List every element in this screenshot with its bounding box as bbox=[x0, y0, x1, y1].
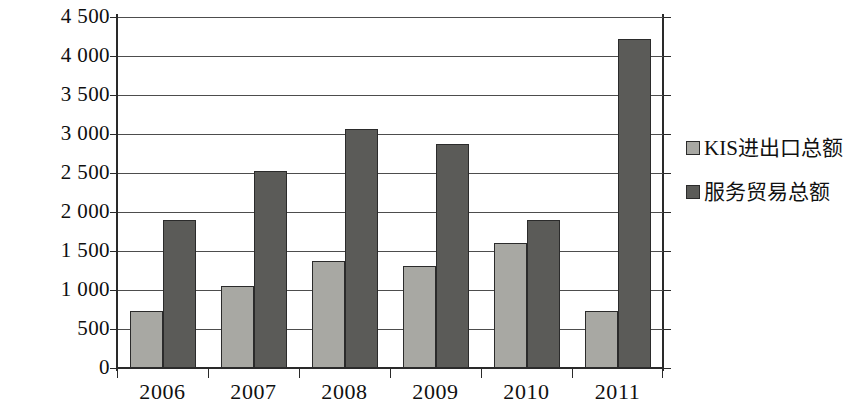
bar-2006-series2 bbox=[163, 220, 196, 368]
x-axis-labels: 200620072008200920102011 bbox=[117, 379, 663, 409]
y-axis-tick-label: 4 000 bbox=[14, 45, 110, 66]
y-axis-tick-right bbox=[663, 56, 671, 57]
bar-2010-series2 bbox=[527, 220, 560, 368]
x-axis-tick bbox=[572, 369, 573, 378]
bar-2007-series1 bbox=[221, 286, 254, 368]
y-axis-tick-right bbox=[663, 134, 671, 135]
legend-item-services: 服务贸易总额 bbox=[686, 170, 863, 214]
y-axis-labels: 4 5004 0003 5003 0002 5002 0001 5001 000… bbox=[0, 17, 110, 368]
x-axis-label-2011: 2011 bbox=[572, 379, 663, 405]
y-axis-tick-right bbox=[663, 329, 671, 330]
bar-2009-series1 bbox=[403, 266, 436, 368]
y-axis-tick-label: 3 500 bbox=[14, 84, 110, 105]
y-axis-tick-label: 2 000 bbox=[14, 201, 110, 222]
y-axis-tick-label: 0 bbox=[14, 357, 110, 378]
x-axis-label-2010: 2010 bbox=[481, 379, 572, 405]
legend-item-kis: KIS进出口总额 bbox=[686, 126, 863, 170]
x-axis-tick bbox=[390, 369, 391, 378]
x-axis-label-2008: 2008 bbox=[299, 379, 390, 405]
bar-2011-series1 bbox=[585, 311, 618, 368]
x-axis-label-2006: 2006 bbox=[117, 379, 208, 405]
y-axis-tick-label: 2 500 bbox=[14, 162, 110, 183]
y-axis-tick-right bbox=[663, 290, 671, 291]
bar-2011-series2 bbox=[618, 39, 651, 368]
bar-2006-series1 bbox=[130, 311, 163, 368]
y-axis-tick-right bbox=[663, 95, 671, 96]
plot-area bbox=[117, 17, 663, 368]
bar-group-2006 bbox=[117, 17, 208, 368]
y-axis-tick-label: 4 500 bbox=[14, 6, 110, 27]
legend: KIS进出口总额 服务贸易总额 bbox=[686, 126, 863, 214]
y-axis-tick-right bbox=[663, 173, 671, 174]
bar-2009-series2 bbox=[436, 144, 469, 368]
y-axis-tick-label: 3 000 bbox=[14, 123, 110, 144]
bar-2010-series1 bbox=[494, 243, 527, 368]
legend-swatch-icon-services bbox=[686, 185, 700, 199]
x-axis-tick bbox=[481, 369, 482, 378]
x-axis-tick bbox=[117, 369, 118, 378]
x-axis-ticks bbox=[117, 369, 663, 379]
bar-group-2008 bbox=[299, 17, 390, 368]
y-axis-tick-right bbox=[663, 212, 671, 213]
legend-label-services: 服务贸易总额 bbox=[704, 181, 830, 204]
bar-2008-series2 bbox=[345, 129, 378, 368]
bar-2007-series2 bbox=[254, 171, 287, 368]
y-axis-tick-right bbox=[663, 251, 671, 252]
x-axis-label-2007: 2007 bbox=[208, 379, 299, 405]
chart-figure: 4 5004 0003 5003 0002 5002 0001 5001 000… bbox=[0, 0, 863, 411]
legend-label-kis: KIS进出口总额 bbox=[704, 137, 843, 160]
y-axis-tick-label: 1 000 bbox=[14, 279, 110, 300]
bar-group-2009 bbox=[390, 17, 481, 368]
bar-group-2011 bbox=[572, 17, 663, 368]
bar-group-2010 bbox=[481, 17, 572, 368]
bar-2008-series1 bbox=[312, 261, 345, 368]
x-axis-tick bbox=[299, 369, 300, 378]
x-axis-tick bbox=[208, 369, 209, 378]
y-axis-tick-right bbox=[663, 368, 671, 369]
y-axis-tick-label: 500 bbox=[14, 318, 110, 339]
y-axis-tick-right bbox=[663, 17, 671, 18]
x-axis-label-2009: 2009 bbox=[390, 379, 481, 405]
x-axis-tick bbox=[662, 369, 663, 378]
legend-swatch-icon-kis bbox=[686, 141, 700, 155]
bar-group-2007 bbox=[208, 17, 299, 368]
y-axis-tick-label: 1 500 bbox=[14, 240, 110, 261]
